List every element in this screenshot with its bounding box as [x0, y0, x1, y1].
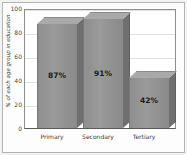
bar-side-face [169, 72, 176, 128]
gridline [25, 10, 175, 11]
bar-value-label: 91% [83, 70, 123, 78]
bar-secondary: 91% [83, 19, 123, 128]
x-tick-label-tertiary: Tertiary [118, 133, 170, 140]
x-tick-label-primary: Primary [26, 133, 78, 140]
bar-value-label: 87% [37, 72, 77, 80]
y-tick-label: 60 [2, 54, 22, 60]
y-tick-label: 20 [2, 102, 22, 108]
y-tick-label: 100 [2, 6, 22, 12]
bar-top-face [129, 71, 177, 78]
y-tick-label: 0 [2, 126, 22, 132]
y-axis-tick-labels: 100 80 60 40 20 0 [0, 9, 22, 129]
y-tick-label: 40 [2, 78, 22, 84]
y-tick-label: 80 [2, 30, 22, 36]
bar-chart-figure: % of each age group in education 100 80 … [0, 0, 187, 155]
bar-top-face [37, 17, 85, 24]
bar-tertiary: 42% [129, 78, 169, 128]
plot-area: 87% 91% 42% [24, 9, 176, 129]
bar-top-face [83, 12, 131, 19]
x-tick-label-secondary: Secondary [72, 133, 124, 140]
bar-value-label: 42% [129, 97, 169, 105]
bar-primary: 87% [37, 24, 77, 128]
